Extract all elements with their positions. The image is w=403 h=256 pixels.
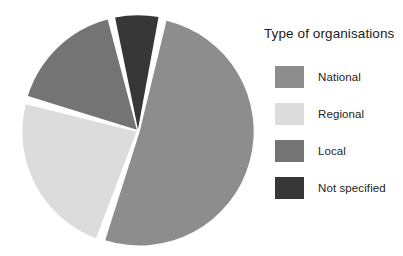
legend-label: Regional [318,108,364,120]
legend-swatch-4 [275,177,304,199]
legend-item: National [262,58,403,95]
legend-swatch-2 [275,103,304,125]
legend-swatch-1 [275,66,304,88]
legend-items: NationalRegionalLocalNot specified [262,58,403,206]
legend-label: Not specified [318,182,386,194]
pie-plot-area [0,0,262,256]
legend-swatch-3 [275,140,304,162]
legend-label: Local [318,145,346,157]
pie-svg [0,0,262,256]
legend-label: National [318,71,361,83]
legend-item: Not specified [262,169,403,206]
legend: Type of organisations NationalRegionalLo… [262,0,403,256]
legend-item: Regional [262,95,403,132]
legend-item: Local [262,132,403,169]
pie-chart-figure: Type of organisations NationalRegionalLo… [0,0,403,256]
legend-title: Type of organisations [264,26,403,41]
